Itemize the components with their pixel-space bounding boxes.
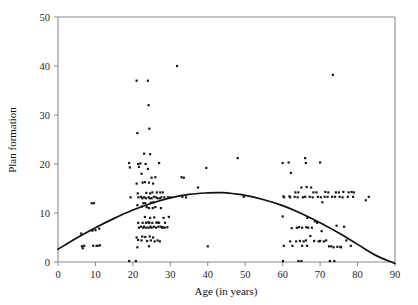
data-point [301, 245, 303, 247]
data-point [365, 199, 367, 201]
data-point [141, 197, 143, 199]
data-point [144, 236, 146, 238]
data-point [128, 162, 130, 164]
data-point [336, 246, 338, 248]
data-point [298, 226, 300, 228]
data-point [205, 167, 207, 169]
data-point [168, 216, 170, 218]
data-point [162, 226, 164, 228]
data-point [307, 227, 309, 229]
data-point [324, 196, 326, 198]
data-point [341, 196, 343, 198]
data-point [163, 196, 165, 198]
data-point [154, 176, 156, 178]
data-point [83, 245, 85, 247]
data-point [155, 222, 157, 224]
data-point [311, 227, 313, 229]
x-tick-label-90: 90 [390, 269, 401, 280]
data-point [144, 216, 146, 218]
data-point [157, 226, 159, 228]
data-point [333, 260, 335, 262]
data-point [151, 222, 153, 224]
data-point [153, 196, 155, 198]
data-point [136, 80, 138, 82]
data-point [97, 245, 99, 247]
data-point [331, 196, 333, 198]
data-point [82, 247, 84, 249]
data-point [158, 162, 160, 164]
data-point [304, 157, 306, 159]
data-point [145, 222, 147, 224]
data-point [135, 260, 137, 262]
data-point [321, 201, 323, 203]
x-tick-label-0: 0 [55, 269, 60, 280]
data-point [166, 226, 168, 228]
x-tick-label-80: 80 [352, 269, 363, 280]
data-point [137, 163, 139, 165]
data-point [140, 173, 142, 175]
data-point [159, 197, 161, 199]
data-point [321, 230, 323, 232]
data-point [92, 245, 94, 247]
x-tick-label-40: 40 [203, 269, 214, 280]
y-axis-ticks: 01020304050 [40, 12, 59, 268]
data-point [164, 222, 166, 224]
data-point [320, 196, 322, 198]
data-point [291, 227, 293, 229]
data-point [294, 191, 296, 193]
data-point [154, 240, 156, 242]
data-point [148, 128, 150, 130]
data-point [145, 163, 147, 165]
data-point [319, 240, 321, 242]
data-point [145, 227, 147, 229]
data-point [303, 240, 305, 242]
data-point [148, 222, 150, 224]
x-tick-label-70: 70 [315, 269, 326, 280]
data-point [323, 240, 325, 242]
data-point [149, 197, 151, 199]
data-point [309, 235, 311, 237]
data-point [340, 246, 342, 248]
data-point [180, 176, 182, 178]
data-point [158, 222, 160, 224]
y-tick-label-30: 30 [40, 110, 51, 121]
data-point [141, 235, 143, 237]
data-point [139, 162, 141, 164]
data-point [152, 236, 154, 238]
data-point [237, 157, 239, 159]
data-point [138, 227, 140, 229]
data-point [151, 197, 153, 199]
data-point [289, 196, 291, 198]
data-point [152, 183, 154, 185]
data-point [329, 260, 331, 262]
data-point [327, 191, 329, 193]
data-point [300, 186, 302, 188]
data-point [289, 240, 291, 242]
x-axis-ticks: 0102030405060708090 [55, 262, 400, 280]
data-point [325, 239, 327, 241]
data-point [156, 191, 158, 193]
data-point [291, 245, 293, 247]
data-point [98, 228, 100, 230]
scatter-plot-figure: 01020304050 0102030405060708090 Age (in … [0, 0, 418, 305]
data-point [137, 239, 139, 241]
data-point [183, 177, 185, 179]
y-tick-label-20: 20 [40, 159, 51, 170]
data-point [335, 191, 337, 193]
x-tick-label-10: 10 [90, 269, 101, 280]
data-point [142, 182, 144, 184]
data-point [151, 191, 153, 193]
data-point [145, 197, 147, 199]
data-point [157, 239, 159, 241]
data-point [176, 65, 178, 67]
data-point [145, 192, 147, 194]
data-point [332, 74, 334, 76]
data-points-layer [80, 65, 370, 262]
y-tick-label-0: 0 [45, 257, 50, 268]
y-tick-label-50: 50 [40, 12, 51, 23]
data-point [149, 192, 151, 194]
data-point [136, 183, 138, 185]
data-point [137, 196, 139, 198]
data-point [153, 226, 155, 228]
data-point [149, 235, 151, 237]
